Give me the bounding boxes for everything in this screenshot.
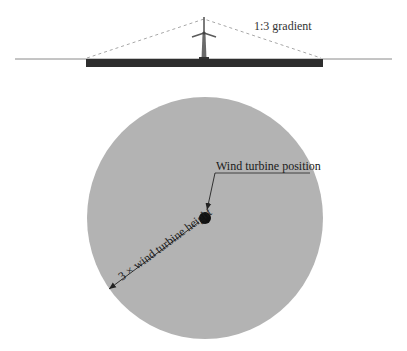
- elevation-view: 1:3 gradient: [15, 17, 392, 67]
- gradient-label: 1:3 gradient: [254, 19, 312, 33]
- foundation-bar: [86, 59, 323, 67]
- turbine-position-label: Wind turbine position: [216, 159, 321, 173]
- plan-view: Wind turbine position 3 × wind turbine h…: [87, 97, 323, 339]
- wind-turbine-icon: [192, 17, 216, 59]
- diagram-canvas: 1:3 gradient Wind turbine position 3 × w…: [0, 0, 407, 351]
